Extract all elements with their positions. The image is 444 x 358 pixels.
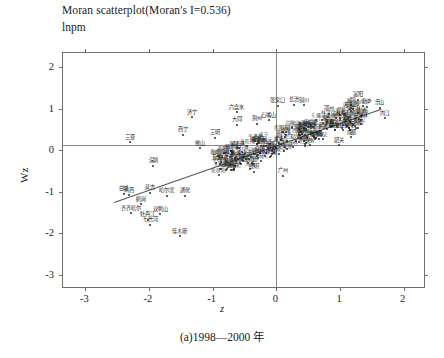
data-point bbox=[342, 129, 344, 131]
point-label: 新乡 bbox=[362, 100, 372, 105]
data-point bbox=[230, 169, 232, 171]
data-point bbox=[278, 153, 280, 155]
point-label: 石原丰 bbox=[292, 136, 307, 141]
data-point bbox=[304, 134, 306, 136]
y-tick-label: 0 bbox=[28, 144, 54, 155]
point-label: 佛山 bbox=[195, 141, 205, 146]
y-tick bbox=[424, 67, 428, 68]
x-tick bbox=[213, 49, 214, 53]
chart-title: Moran scatterplot(Moran's I=0.536) bbox=[62, 4, 231, 16]
data-point bbox=[277, 105, 279, 107]
data-point bbox=[278, 142, 280, 144]
data-point bbox=[384, 117, 386, 119]
data-point bbox=[257, 157, 259, 159]
point-label: 成都 bbox=[347, 130, 357, 135]
data-point bbox=[357, 127, 359, 129]
data-point bbox=[256, 143, 258, 145]
data-point bbox=[303, 104, 305, 106]
data-point bbox=[236, 111, 238, 113]
x-tick bbox=[404, 49, 405, 53]
data-point bbox=[269, 156, 271, 158]
y-tick-label: -1 bbox=[28, 185, 54, 196]
data-point bbox=[284, 146, 286, 148]
data-point bbox=[179, 235, 181, 237]
point-label: 海津通 bbox=[229, 141, 244, 146]
point-label: 西通通 bbox=[313, 125, 328, 130]
data-point bbox=[191, 116, 193, 118]
y-tick bbox=[424, 275, 428, 276]
y-tick bbox=[59, 67, 63, 68]
x-tick bbox=[85, 49, 86, 53]
y-tick bbox=[424, 192, 428, 193]
data-point bbox=[362, 105, 364, 107]
data-point bbox=[214, 137, 216, 139]
data-point bbox=[282, 175, 284, 177]
x-tick bbox=[85, 287, 86, 291]
point-label: 广州 bbox=[278, 169, 288, 174]
y-tick bbox=[59, 275, 63, 276]
data-point bbox=[236, 124, 238, 126]
data-point bbox=[219, 168, 221, 170]
chart-subtitle: lnpm bbox=[62, 21, 86, 33]
point-label: 三亚 bbox=[125, 135, 135, 140]
data-point bbox=[304, 145, 306, 147]
data-point bbox=[379, 107, 381, 109]
point-label: 济宁 bbox=[187, 110, 197, 115]
data-point bbox=[305, 142, 307, 144]
point-label: 内江 bbox=[380, 111, 390, 116]
data-point bbox=[292, 146, 294, 148]
point-label: 齐齐哈尔 bbox=[121, 206, 141, 211]
point-label: 洛阳 bbox=[353, 120, 363, 125]
data-point bbox=[166, 195, 168, 197]
data-point bbox=[322, 138, 324, 140]
y-tick-label: 1 bbox=[28, 102, 54, 113]
x-tick bbox=[276, 49, 277, 53]
data-point bbox=[253, 171, 255, 173]
point-label: 乌海 bbox=[245, 162, 255, 167]
point-label: 西宁 bbox=[178, 127, 188, 132]
point-label: 白城 bbox=[119, 187, 129, 192]
data-point bbox=[149, 224, 151, 226]
point-label: 鄂州 bbox=[324, 107, 334, 112]
data-point bbox=[350, 107, 352, 109]
point-label: 三明 bbox=[210, 131, 220, 136]
y-axis-title: Wz bbox=[18, 155, 30, 183]
data-point bbox=[352, 108, 354, 110]
data-point bbox=[184, 195, 186, 197]
point-label: 长治 bbox=[289, 98, 299, 103]
x-tick bbox=[149, 49, 150, 53]
point-label: 哈尔滨 bbox=[159, 189, 174, 194]
data-point bbox=[152, 165, 154, 167]
x-tick bbox=[340, 49, 341, 53]
data-point bbox=[298, 141, 300, 143]
data-point bbox=[199, 147, 201, 149]
point-label: 玉溪 bbox=[211, 156, 221, 161]
point-label: 铜川 bbox=[299, 98, 309, 103]
x-tick bbox=[213, 287, 214, 291]
point-label: 茂名 bbox=[229, 161, 239, 166]
point-label: 乐山 bbox=[375, 101, 385, 106]
point-label: 原通 bbox=[260, 150, 270, 155]
x-axis-title: z bbox=[0, 303, 444, 314]
y-tick bbox=[59, 109, 63, 110]
point-label: 原安阳 bbox=[261, 142, 276, 147]
data-point bbox=[293, 104, 295, 106]
y-tick bbox=[424, 150, 428, 151]
data-point bbox=[129, 141, 131, 143]
data-point bbox=[309, 144, 311, 146]
data-point bbox=[264, 155, 266, 157]
data-point bbox=[182, 134, 184, 136]
point-label: 威海 bbox=[347, 98, 357, 103]
data-point bbox=[241, 159, 243, 161]
point-label: 海北 bbox=[294, 127, 304, 132]
point-label: 宁川丰 bbox=[213, 163, 228, 168]
y-tick bbox=[424, 233, 428, 234]
data-point bbox=[236, 147, 238, 149]
point-label: 七台河 bbox=[143, 218, 158, 223]
y-tick bbox=[59, 192, 63, 193]
data-point bbox=[149, 192, 151, 194]
y-tick bbox=[424, 109, 428, 110]
x-tick bbox=[149, 287, 150, 291]
data-point bbox=[318, 138, 320, 140]
figure-caption: (a)1998—2000 年 bbox=[0, 328, 444, 344]
